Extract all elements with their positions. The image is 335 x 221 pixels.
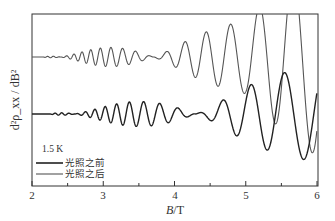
chart-canvas: 2 3 4 5 6 B/T d²ρ_xx / dB² 1.5 K 光照之前 光照… (0, 0, 335, 221)
x-tick-label: 6 (314, 189, 320, 201)
legend-label-after: 光照之后 (65, 168, 105, 179)
x-axis-tick-labels: 2 3 4 5 6 (29, 189, 320, 201)
x-axis-ticks (32, 181, 317, 186)
x-axis-label: B/T (166, 203, 185, 217)
series-after-illumination-line (32, 0, 317, 153)
legend: 1.5 K 光照之前 光照之后 (36, 144, 105, 179)
series-before-illumination-line (32, 73, 317, 160)
x-tick-label: 4 (172, 189, 178, 201)
y-axis-label: d²ρ_xx / dB² (8, 69, 22, 130)
legend-temperature: 1.5 K (42, 144, 63, 154)
legend-label-before: 光照之前 (65, 157, 105, 168)
x-tick-label: 3 (100, 189, 106, 201)
x-tick-label: 2 (29, 189, 35, 201)
x-tick-label: 5 (243, 189, 249, 201)
